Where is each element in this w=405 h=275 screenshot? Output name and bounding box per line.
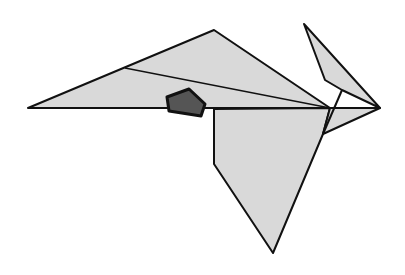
lower-body-polygon bbox=[214, 108, 330, 253]
ear-piece bbox=[304, 24, 380, 108]
tangram-figure bbox=[0, 0, 405, 275]
